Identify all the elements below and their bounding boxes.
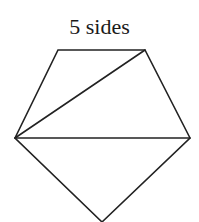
diagram-canvas: 5 sides [0,0,199,222]
diagonal-left-to-top-right [15,50,145,138]
pentagon-figure [0,0,199,222]
pentagon-outline [15,50,190,222]
